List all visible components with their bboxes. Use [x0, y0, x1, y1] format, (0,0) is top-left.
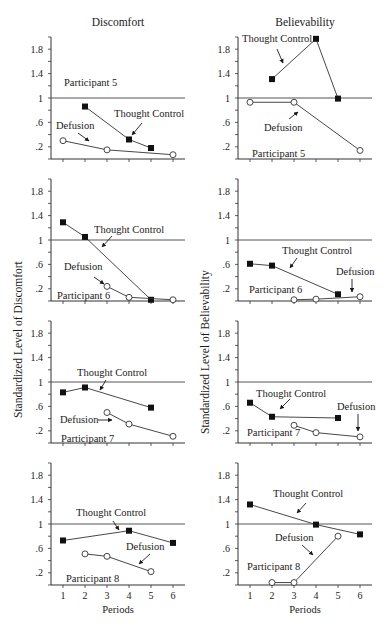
series-annotation: Thought Control	[76, 507, 146, 518]
circle-marker-icon	[148, 569, 154, 575]
arrow-icon	[277, 49, 283, 63]
annotations-panel-4: Thought ControlDefusionParticipant 7	[60, 367, 147, 444]
y-tick-label: 1.8	[31, 44, 44, 55]
circle-marker-icon	[357, 434, 363, 440]
circle-marker-icon	[104, 410, 110, 416]
y-tick-label: .2	[223, 141, 231, 152]
circle-marker-icon	[126, 294, 132, 300]
circle-marker-icon	[357, 294, 363, 300]
y-tick-label: 1	[38, 93, 43, 104]
square-marker-icon	[148, 297, 154, 303]
square-marker-icon	[357, 531, 363, 537]
arrow-icon	[297, 503, 306, 513]
y-tick-label: 1.8	[218, 470, 231, 481]
participant-label: Participant 6	[249, 284, 302, 295]
y-tick-label: .6	[223, 117, 231, 128]
circle-marker-icon	[291, 580, 297, 586]
square-marker-icon	[126, 136, 132, 142]
arrow-icon	[78, 133, 89, 141]
square-marker-icon	[269, 263, 275, 269]
x-tick-label: 3	[105, 590, 110, 601]
series-line-defusion	[85, 554, 151, 572]
participant-label: Participant 5	[64, 77, 117, 88]
square-marker-icon	[313, 522, 319, 528]
series-line-thought-control	[63, 387, 151, 407]
y-tick-label: 1	[38, 235, 43, 246]
arrow-icon	[102, 236, 112, 247]
series-annotation: Defusion	[275, 532, 314, 543]
y-tick-label: .6	[36, 259, 44, 270]
y-tick-label: .2	[223, 567, 231, 578]
square-marker-icon	[60, 389, 66, 395]
circle-marker-icon	[269, 580, 275, 586]
y-tick-label: 1.4	[218, 210, 231, 221]
y-tick-label: 1.4	[31, 68, 44, 79]
arrow-icon	[139, 554, 150, 564]
participant-label: Participant 8	[66, 573, 119, 584]
circle-marker-icon	[247, 99, 253, 105]
annotations-panel-3: Thought ControlDefusionParticipant 6	[249, 245, 375, 295]
arrow-icon	[290, 258, 297, 268]
circle-marker-icon	[104, 283, 110, 289]
circle-marker-icon	[291, 99, 297, 105]
series-line-thought-control	[272, 39, 338, 99]
y-tick-label: .6	[36, 117, 44, 128]
y-tick-label: 1.8	[218, 328, 231, 339]
x-tick-label: 3	[292, 590, 297, 601]
y-tick-label: 1.8	[218, 44, 231, 55]
y-tick-label: 1.8	[31, 470, 44, 481]
circle-marker-icon	[357, 147, 363, 153]
arrow-icon	[132, 123, 142, 135]
y-tick-label: 1.4	[218, 68, 231, 79]
annotations-panel-2: Thought ControlDefusionParticipant 6	[57, 224, 164, 301]
series-annotation: Thought Control	[282, 245, 352, 256]
panels-svg: .2.611.41.8.2.611.41.8.2.611.41.8.2.611.…	[0, 0, 388, 628]
arrow-icon	[302, 545, 313, 555]
x-tick-label: 4	[314, 590, 319, 601]
x-tick-label: 1	[61, 590, 66, 601]
participant-label: Participant 7	[247, 427, 300, 438]
circle-marker-icon	[104, 147, 110, 153]
x-tick-label: 1	[248, 590, 253, 601]
x-tick-label: 5	[149, 590, 154, 601]
y-tick-label: 1	[225, 519, 230, 530]
panel-believability-participant-5: .2.611.41.8	[218, 36, 373, 162]
y-tick-label: 1.8	[31, 328, 44, 339]
series-annotation: Defusion	[56, 120, 95, 131]
square-marker-icon	[247, 400, 253, 406]
y-tick-label: 1	[225, 93, 230, 104]
circle-marker-icon	[170, 433, 176, 439]
square-marker-icon	[82, 234, 88, 240]
participant-label: Participant 7	[61, 433, 114, 444]
square-marker-icon	[148, 405, 154, 411]
x-tick-label: 6	[171, 590, 176, 601]
series-annotation: Defusion	[264, 122, 303, 133]
circle-marker-icon	[104, 553, 110, 559]
square-marker-icon	[148, 145, 154, 151]
x-tick-label: 5	[336, 590, 341, 601]
participant-label: Participant 5	[252, 148, 305, 159]
participant-label: Participant 6	[57, 290, 110, 301]
series-line-defusion	[294, 425, 360, 437]
circle-marker-icon	[170, 152, 176, 158]
y-tick-label: 1.8	[31, 186, 44, 197]
y-tick-label: 1	[225, 235, 230, 246]
series-annotation: Defusion	[336, 266, 375, 277]
series-annotation: Defusion	[64, 261, 103, 272]
square-marker-icon	[313, 36, 319, 42]
square-marker-icon	[247, 261, 253, 267]
series-annotation: Thought Control	[242, 33, 312, 44]
circle-marker-icon	[170, 297, 176, 303]
y-tick-label: .2	[36, 283, 44, 294]
y-tick-label: 1.4	[31, 352, 44, 363]
circle-marker-icon	[335, 533, 341, 539]
y-tick-label: .6	[223, 259, 231, 270]
series-annotation: Defusion	[126, 541, 165, 552]
circle-marker-icon	[313, 430, 319, 436]
y-tick-label: .6	[36, 543, 44, 554]
series-annotation: Thought Control	[256, 388, 326, 399]
series-line-defusion	[294, 297, 360, 300]
square-marker-icon	[335, 96, 341, 102]
x-tick-label: 2	[83, 590, 88, 601]
x-tick-label: 2	[270, 590, 275, 601]
